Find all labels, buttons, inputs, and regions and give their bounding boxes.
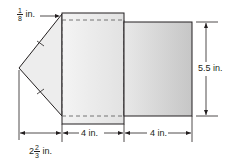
height-arrow-up: [204, 23, 208, 28]
unit-text: in.: [42, 146, 52, 156]
middle-width-label: 4 in.: [81, 129, 98, 138]
tri-dim-arrow-left: [20, 131, 25, 135]
fraction-numerator: 1: [17, 7, 23, 15]
height-label: 5.5 in.: [198, 64, 223, 73]
flap-width-label: 1 8 in.: [17, 7, 35, 22]
fraction-denominator: 3: [35, 152, 39, 159]
right-dim-arrow-left: [125, 131, 130, 135]
right-dim-arrow-right: [186, 131, 191, 135]
triangle-face: [19, 14, 62, 116]
fraction-denominator: 8: [18, 15, 22, 22]
mid-dim-arrow-left: [63, 131, 68, 135]
flap-width-fraction: 1 8: [17, 7, 23, 22]
middle-face: [62, 13, 124, 124]
net-diagram: [0, 0, 234, 161]
height-arrow-down: [204, 110, 208, 115]
mid-dim-arrow-right: [118, 131, 123, 135]
tri-dim-arrow-right: [56, 131, 61, 135]
right-width-label: 4 in.: [150, 129, 167, 138]
triangle-width-label: 2 2 3 in.: [29, 144, 52, 159]
triangle-width-fraction: 2 3: [34, 144, 40, 159]
right-face: [124, 22, 192, 116]
fraction-numerator: 2: [34, 144, 40, 152]
unit-text: in.: [25, 9, 35, 19]
